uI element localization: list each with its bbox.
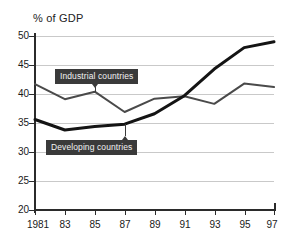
chart-container: % of GDP 50 45 40 35 30 25 20 1981 83 85: [0, 0, 292, 241]
annotation-developing-label: Developing countries: [51, 142, 132, 152]
annotation-industrial-countries: Industrial countries: [55, 69, 138, 84]
annotation-developing-countries: Developing countries: [46, 140, 137, 155]
line-developing-countries: [35, 42, 274, 130]
series-lines: [0, 0, 292, 241]
leader-line-developing: [125, 124, 126, 136]
annotation-pointer-icon: [122, 136, 128, 140]
annotation-industrial-label: Industrial countries: [60, 71, 133, 81]
line-industrial-countries: [35, 84, 274, 112]
annotation-pointer-icon: [92, 84, 98, 88]
